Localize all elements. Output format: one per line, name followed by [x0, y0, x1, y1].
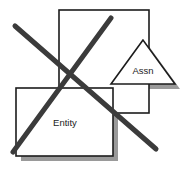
assn-triangle-label: Assn: [132, 65, 153, 76]
diagram-canvas: Assn Entity: [0, 0, 188, 171]
diagram-svg: Assn Entity: [0, 0, 188, 171]
entity-rectangle-label: Entity: [53, 117, 77, 128]
